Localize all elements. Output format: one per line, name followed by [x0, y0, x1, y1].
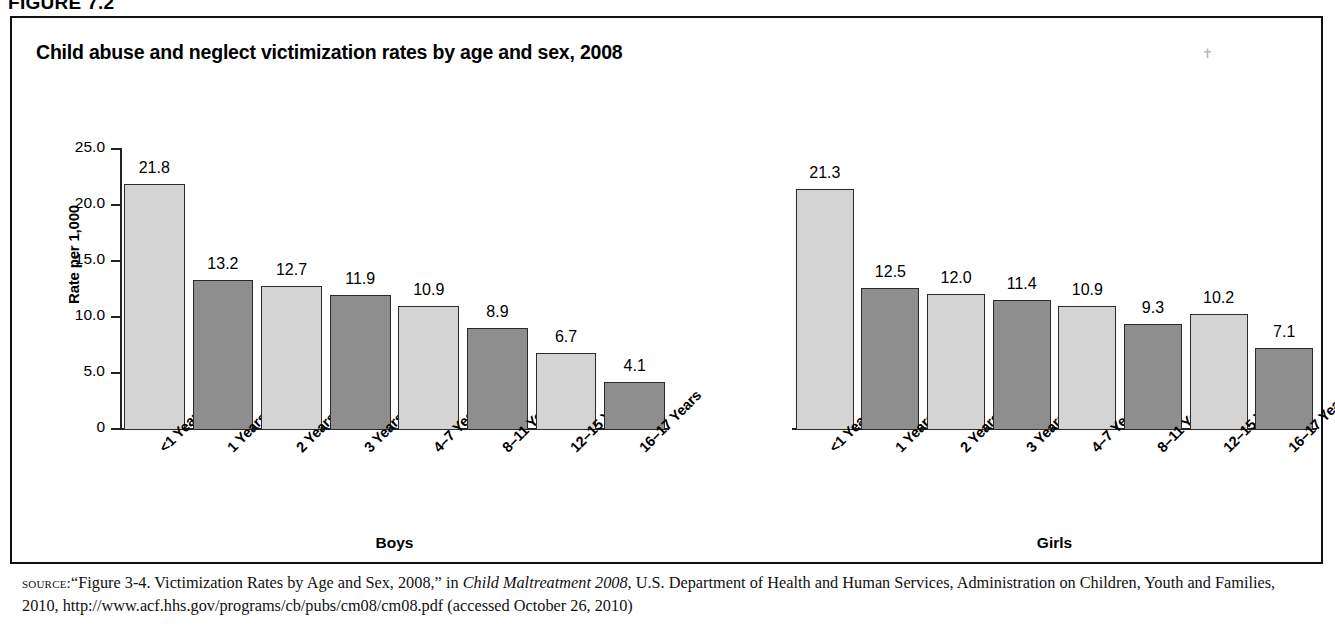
y-axis-tick [111, 204, 120, 206]
bar-girls-3[interactable] [993, 300, 1051, 430]
bar-boys-4[interactable] [398, 306, 459, 430]
bar-girls-0[interactable] [796, 189, 854, 430]
y-axis-tick [111, 316, 120, 318]
group-label-boys: Boys [120, 534, 669, 552]
source-note: source:“Figure 3-4. Victimization Rates … [22, 571, 1312, 617]
bar-boys-2[interactable] [261, 286, 322, 430]
chart-plot-area: Rate per 1,000 25.020.015.010.05.0021.8<… [12, 18, 1325, 566]
bar-girls-1[interactable] [861, 288, 919, 430]
source-title-italic: Child Maltreatment 2008 [463, 573, 628, 592]
figure-page: FIGURE 7.2 Child abuse and neglect victi… [0, 0, 1335, 634]
bar-value-label: 6.7 [522, 328, 611, 346]
bar-boys-6[interactable] [536, 353, 597, 430]
y-axis-tick-label: 5.0 [25, 362, 105, 380]
y-axis-tick [111, 372, 120, 374]
paper-speck: ✝ [1202, 46, 1213, 62]
bar-boys-3[interactable] [330, 295, 391, 430]
bar-value-label: 8.9 [453, 303, 542, 321]
bar-boys-1[interactable] [193, 280, 254, 430]
y-axis-tick-label: 0 [25, 418, 105, 436]
source-text-part1: “Figure 3-4. Victimization Rates by Age … [71, 573, 463, 592]
bar-value-label: 10.9 [384, 281, 473, 299]
bar-boys-0[interactable] [124, 184, 185, 430]
bar-value-label: 10.9 [1044, 281, 1130, 299]
figure-number: FIGURE 7.2 [8, 0, 114, 14]
bar-girls-7[interactable] [1255, 348, 1313, 430]
bar-girls-2[interactable] [927, 294, 985, 430]
bar-value-label: 21.3 [782, 164, 868, 182]
source-kicker: source: [22, 575, 71, 591]
bar-value-label: 4.1 [590, 357, 679, 375]
group-label-girls: Girls [792, 534, 1317, 552]
bar-girls-6[interactable] [1190, 314, 1248, 430]
figure-frame: Child abuse and neglect victimization ra… [10, 16, 1323, 564]
y-axis-tick-label: 20.0 [25, 194, 105, 212]
y-axis-tick-label: 10.0 [25, 306, 105, 324]
y-axis-tick [111, 148, 120, 150]
y-axis-tick [111, 428, 120, 430]
bar-value-label: 10.2 [1176, 289, 1262, 307]
bar-boys-5[interactable] [467, 328, 528, 430]
y-axis-line [120, 148, 122, 430]
bar-value-label: 7.1 [1241, 323, 1327, 341]
bar-girls-5[interactable] [1124, 324, 1182, 430]
y-axis-tick-label: 25.0 [25, 138, 105, 156]
bar-girls-4[interactable] [1058, 306, 1116, 430]
y-axis-tick-label: 15.0 [25, 250, 105, 268]
y-axis-tick [111, 260, 120, 262]
bar-value-label: 21.8 [110, 159, 199, 177]
